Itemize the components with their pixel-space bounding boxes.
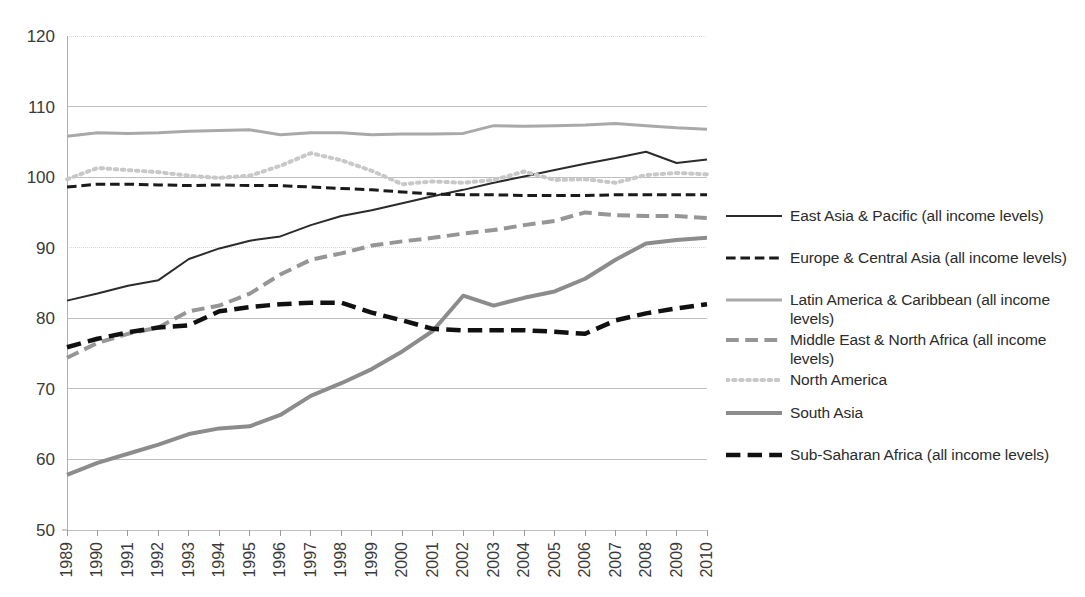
legend-spacer	[726, 269, 1078, 290]
legend-label-sub-saharan-africa: Sub-Saharan Africa (all income levels)	[790, 445, 1049, 464]
x-tick-label: 2001	[424, 542, 441, 578]
series-line	[67, 153, 707, 184]
x-tick-label: 2002	[454, 542, 471, 578]
x-tick-label: 1997	[302, 542, 319, 578]
legend-swatch-east-asia-pacific	[726, 207, 782, 225]
series-line	[67, 303, 707, 347]
series-line	[67, 238, 707, 475]
legend-spacer	[726, 424, 1078, 445]
x-tick-label: 2009	[668, 542, 685, 578]
gridlines	[67, 36, 707, 530]
data-series-group	[67, 124, 707, 475]
y-tick-label: 100	[27, 168, 55, 187]
chart-figure: 1201101009080706050 19891990199119921993…	[0, 0, 1085, 597]
legend-spacer	[726, 227, 1078, 248]
x-tick-label: 1995	[241, 542, 258, 578]
x-tick-label: 1994	[210, 542, 227, 578]
legend-spacer	[726, 391, 1078, 403]
x-tick-label: 2010	[698, 542, 715, 578]
x-tick-label: 2005	[546, 542, 563, 578]
legend-swatch-south-asia	[726, 404, 782, 422]
legend-item-sub-saharan-africa[interactable]: Sub-Saharan Africa (all income levels)	[726, 445, 1078, 464]
legend-swatch-europe-central-asia	[726, 249, 782, 267]
legend-swatch-north-america	[726, 371, 782, 389]
legend-label-europe-central-asia: Europe & Central Asia (all income levels…	[790, 248, 1067, 267]
legend-item-latin-america-caribbean[interactable]: Latin America & Caribbean (all income le…	[726, 290, 1078, 328]
legend-label-east-asia-pacific: East Asia & Pacific (all income levels)	[790, 206, 1044, 225]
legend-label-south-asia: South Asia	[790, 403, 863, 422]
y-tick-label: 60	[36, 450, 55, 469]
x-tick-label: 2000	[393, 542, 410, 578]
series-line	[67, 184, 707, 195]
y-tick-label: 50	[36, 521, 55, 540]
x-tick-label: 2006	[576, 542, 593, 578]
y-tick-label: 120	[27, 27, 55, 46]
legend-swatch-sub-saharan-africa	[726, 446, 782, 464]
y-tick-label: 80	[36, 309, 55, 328]
legend-label-north-america: North America	[790, 370, 887, 389]
series-line	[67, 124, 707, 137]
legend-swatch-latin-america-caribbean	[726, 291, 782, 309]
legend-item-east-asia-pacific[interactable]: East Asia & Pacific (all income levels)	[726, 206, 1078, 225]
series-line	[67, 212, 707, 357]
legend-label-latin-america-caribbean: Latin America & Caribbean (all income le…	[790, 290, 1078, 328]
legend-swatch-middle-east-north-africa	[726, 331, 782, 349]
legend-item-north-america[interactable]: North America	[726, 370, 1078, 389]
x-axis-tick-labels: 1989199019911992199319941995199619971998…	[58, 542, 715, 578]
x-tick-label: 2008	[637, 542, 654, 578]
x-axis-ticks	[62, 530, 707, 536]
x-tick-label: 1999	[363, 542, 380, 578]
x-tick-label: 1998	[332, 542, 349, 578]
legend-item-middle-east-north-africa[interactable]: Middle East & North Africa (all income l…	[726, 330, 1078, 368]
y-axis-tick-labels: 1201101009080706050	[27, 27, 55, 540]
chart-legend: East Asia & Pacific (all income levels) …	[726, 206, 1078, 466]
x-tick-label: 2007	[607, 542, 624, 578]
legend-item-europe-central-asia[interactable]: Europe & Central Asia (all income levels…	[726, 248, 1078, 267]
y-tick-label: 70	[36, 380, 55, 399]
x-tick-label: 2003	[485, 542, 502, 578]
x-tick-label: 1992	[149, 542, 166, 578]
x-tick-label: 1989	[58, 542, 75, 578]
x-tick-label: 1991	[119, 542, 136, 578]
x-tick-label: 1996	[271, 542, 288, 578]
legend-label-middle-east-north-africa: Middle East & North Africa (all income l…	[790, 330, 1078, 368]
x-tick-label: 2004	[515, 542, 532, 578]
legend-item-south-asia[interactable]: South Asia	[726, 403, 1078, 422]
y-tick-label: 90	[36, 239, 55, 258]
y-tick-label: 110	[28, 98, 55, 117]
x-tick-label: 1993	[180, 542, 197, 578]
x-tick-label: 1990	[88, 542, 105, 578]
